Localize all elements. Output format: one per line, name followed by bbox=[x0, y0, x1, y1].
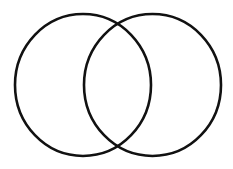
venn-diagram bbox=[0, 0, 233, 169]
